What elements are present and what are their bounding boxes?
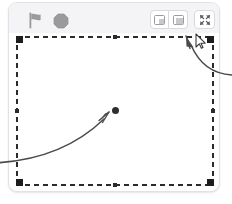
stop-button[interactable] (53, 13, 69, 29)
selection-handle-top-left[interactable] (16, 36, 23, 43)
sprite-dot[interactable] (112, 107, 119, 114)
large-stage-button[interactable] (169, 10, 188, 29)
stage-controls-bar (9, 3, 219, 33)
fullscreen-arrows-icon (199, 14, 211, 26)
stage-panel-root (0, 0, 232, 204)
large-stage-icon (173, 15, 184, 25)
selection-edge-left (16, 36, 18, 186)
selection-edge-bottom (16, 184, 214, 186)
stop-octagon-icon (53, 13, 69, 29)
selection-handle-middle-left[interactable] (15, 109, 19, 113)
selection-handle-bottom-right[interactable] (207, 179, 214, 186)
stage-size-toggle-group (150, 10, 188, 29)
stage-canvas[interactable] (16, 36, 214, 186)
selection-handle-bottom-left[interactable] (16, 179, 23, 186)
selection-handle-top-center[interactable] (113, 35, 117, 39)
selection-edge-right (212, 36, 214, 186)
selection-edge-top (16, 36, 214, 38)
selection-handle-top-right[interactable] (207, 36, 214, 43)
fullscreen-button[interactable] (194, 10, 215, 29)
green-flag-icon (27, 12, 44, 29)
small-stage-icon (154, 15, 165, 25)
green-flag-button[interactable] (27, 12, 44, 29)
small-stage-button[interactable] (150, 10, 169, 29)
